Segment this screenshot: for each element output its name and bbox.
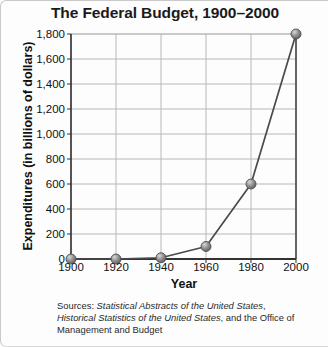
source-note: Sources: Statistical Abstracts of the Un…: [57, 300, 303, 337]
chart-figure: The Federal Budget, 1900–2000 Expenditur…: [0, 0, 328, 347]
x-tick-label: 2000: [269, 261, 323, 273]
data-line: [71, 34, 296, 259]
y-tick-label: 400: [7, 203, 65, 215]
y-tick-label: 1,000: [7, 128, 65, 140]
y-tick-label: 200: [7, 228, 65, 240]
y-tick-label: 1,400: [7, 78, 65, 90]
source-separator: ,: [263, 300, 266, 311]
y-tick-label: 800: [7, 153, 65, 165]
data-series-line: [71, 34, 296, 259]
y-tick-label: 600: [7, 178, 65, 190]
y-tick-label: 1,800: [7, 28, 65, 40]
source-prefix: Sources:: [57, 300, 94, 311]
data-point-marker: [201, 242, 211, 252]
y-tick-label: 1,600: [7, 53, 65, 65]
y-tick-label: 1,200: [7, 103, 65, 115]
data-point-markers: [66, 29, 301, 264]
data-point-marker: [291, 29, 301, 39]
source-work-one: Statistical Abstracts of the United Stat…: [97, 300, 263, 311]
source-work-two: Historical Statistics of the United Stat…: [57, 312, 221, 323]
data-point-marker: [246, 179, 256, 189]
